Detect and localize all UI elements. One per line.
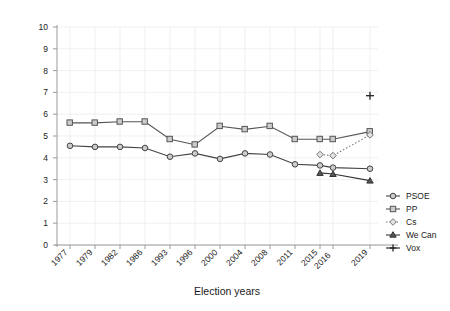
x-tick-label: 1986 bbox=[124, 247, 145, 268]
x-tick-label: 1996 bbox=[174, 247, 195, 268]
x-tickmarks bbox=[70, 245, 370, 249]
data-point-psoe bbox=[67, 143, 73, 149]
data-point-pp bbox=[317, 136, 322, 141]
data-point-pp bbox=[117, 119, 122, 124]
data-point-psoe bbox=[367, 166, 373, 172]
plus-marker-icon bbox=[390, 245, 397, 252]
x-tick-labels: 1977 1979 1982 1986 1993 1996 2000 2004 … bbox=[49, 247, 370, 271]
y-tickmarks bbox=[53, 27, 57, 245]
data-point-psoe bbox=[217, 156, 223, 162]
legend-item-psoe[interactable]: PSOE bbox=[386, 191, 430, 201]
data-point-pp bbox=[67, 120, 72, 125]
y-tick-label: 2 bbox=[43, 196, 48, 206]
x-tick-label: 2004 bbox=[224, 247, 245, 268]
y-tick-label: 8 bbox=[43, 66, 48, 76]
data-point-pp bbox=[330, 136, 335, 141]
y-tick-label: 4 bbox=[43, 153, 48, 163]
y-tick-labels: 10 9 8 7 6 5 4 3 2 1 0 bbox=[39, 22, 49, 250]
chart-figure: 10 9 8 7 6 5 4 3 2 1 0 bbox=[0, 0, 450, 311]
legend-item-cs[interactable]: Cs bbox=[386, 217, 416, 227]
data-point-vox bbox=[366, 92, 374, 100]
data-point-pp bbox=[92, 120, 97, 125]
data-point-psoe bbox=[192, 151, 198, 157]
y-tick-label: 6 bbox=[43, 109, 48, 119]
x-tick-label: 2011 bbox=[274, 247, 294, 267]
x-tick-label: 2008 bbox=[249, 247, 270, 268]
legend-label-pp: PP bbox=[406, 204, 418, 214]
y-tick-label: 9 bbox=[43, 44, 48, 54]
y-tick-label: 3 bbox=[43, 175, 48, 185]
data-point-pp bbox=[242, 126, 247, 131]
diamond-marker-icon bbox=[390, 219, 397, 226]
legend-item-wecan[interactable]: We Can bbox=[386, 230, 437, 240]
data-point-pp bbox=[142, 119, 147, 124]
data-point-pp bbox=[192, 142, 197, 147]
y-tick-label: 10 bbox=[39, 22, 49, 32]
legend-item-pp[interactable]: PP bbox=[386, 204, 418, 214]
y-tick-label: 5 bbox=[43, 131, 48, 141]
y-tick-label: 0 bbox=[43, 240, 48, 250]
legend-label-cs: Cs bbox=[406, 217, 416, 227]
data-point-psoe bbox=[317, 163, 323, 169]
data-point-pp bbox=[292, 136, 297, 141]
line-chart: 10 9 8 7 6 5 4 3 2 1 0 bbox=[0, 0, 450, 311]
data-point-psoe bbox=[167, 154, 173, 160]
series-cs bbox=[317, 132, 374, 159]
data-point-cs bbox=[317, 151, 324, 158]
data-point-psoe bbox=[92, 144, 98, 150]
legend-label-vox: Vox bbox=[406, 243, 421, 253]
circle-marker-icon bbox=[390, 193, 396, 199]
x-tick-label: 1979 bbox=[74, 247, 95, 268]
data-point-psoe bbox=[330, 165, 336, 171]
y-tick-label: 7 bbox=[43, 87, 48, 97]
x-tick-label: 1977 bbox=[49, 247, 70, 268]
x-tick-label: 2019 bbox=[349, 247, 370, 268]
x-tick-label: 1993 bbox=[149, 247, 170, 268]
square-marker-icon bbox=[390, 206, 395, 211]
data-point-pp bbox=[217, 123, 222, 128]
data-point-psoe bbox=[117, 144, 123, 150]
series-wecan bbox=[317, 170, 373, 183]
legend-label-psoe: PSOE bbox=[406, 191, 430, 201]
data-point-psoe bbox=[242, 151, 248, 157]
data-point-pp bbox=[267, 123, 272, 128]
chart-legend: PSOE PP Cs We Can bbox=[386, 191, 437, 253]
data-point-psoe bbox=[267, 152, 273, 158]
data-point-pp bbox=[167, 136, 172, 141]
legend-label-wecan: We Can bbox=[406, 230, 437, 240]
y-tick-label: 1 bbox=[43, 218, 48, 228]
x-tick-label: 2000 bbox=[199, 247, 220, 268]
x-tick-label: 1982 bbox=[99, 247, 120, 268]
x-axis-title: Election years bbox=[194, 285, 260, 297]
data-point-psoe bbox=[292, 162, 298, 168]
data-point-psoe bbox=[142, 145, 148, 151]
series-vox bbox=[366, 92, 374, 100]
